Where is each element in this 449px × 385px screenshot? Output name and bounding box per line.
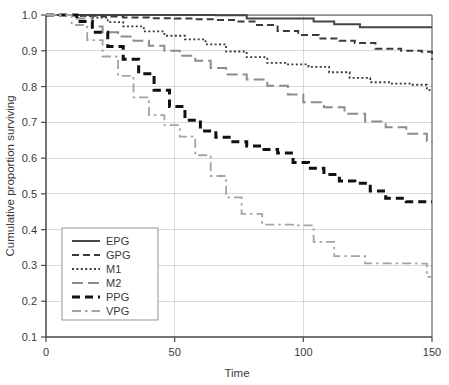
y-tick-label: 0.2 bbox=[22, 295, 37, 307]
km-survival-plot: 0.10.20.30.40.50.60.70.80.91.0 050100150… bbox=[0, 0, 449, 385]
legend-label-gpg[interactable]: GPG bbox=[106, 249, 130, 261]
y-tick-label: 0.9 bbox=[22, 45, 37, 57]
y-tick-label: 0.7 bbox=[22, 116, 37, 128]
legend-label-m1[interactable]: M1 bbox=[106, 263, 121, 275]
y-tick-label: 0.5 bbox=[22, 188, 37, 200]
legend[interactable]: EPGGPGM1M2PPGVPG bbox=[62, 228, 158, 320]
x-axis-ticks: 050100150 bbox=[43, 337, 441, 358]
legend-label-ppg[interactable]: PPG bbox=[106, 291, 129, 303]
x-tick-label: 0 bbox=[43, 346, 49, 358]
x-tick-label: 50 bbox=[169, 346, 181, 358]
x-tick-label: 100 bbox=[294, 346, 312, 358]
y-tick-label: 0.1 bbox=[22, 331, 37, 343]
series-curve-gpg bbox=[46, 15, 432, 60]
y-tick-label: 0.3 bbox=[22, 259, 37, 271]
x-axis-title: Time bbox=[224, 367, 249, 379]
y-tick-label: 0.8 bbox=[22, 81, 37, 93]
x-tick-label: 150 bbox=[423, 346, 441, 358]
legend-label-epg[interactable]: EPG bbox=[106, 235, 129, 247]
legend-label-m2[interactable]: M2 bbox=[106, 277, 121, 289]
legend-label-vpg[interactable]: VPG bbox=[106, 305, 129, 317]
survival-chart: 0.10.20.30.40.50.60.70.80.91.0 050100150… bbox=[0, 0, 449, 385]
y-axis-ticks: 0.10.20.30.40.50.60.70.80.91.0 bbox=[22, 9, 46, 343]
y-tick-label: 0.6 bbox=[22, 152, 37, 164]
series-curve-m2 bbox=[46, 15, 432, 143]
y-axis-title: Cumulative proportion surviving bbox=[4, 95, 16, 256]
y-tick-label: 1.0 bbox=[22, 9, 37, 21]
y-tick-label: 0.4 bbox=[22, 224, 37, 236]
